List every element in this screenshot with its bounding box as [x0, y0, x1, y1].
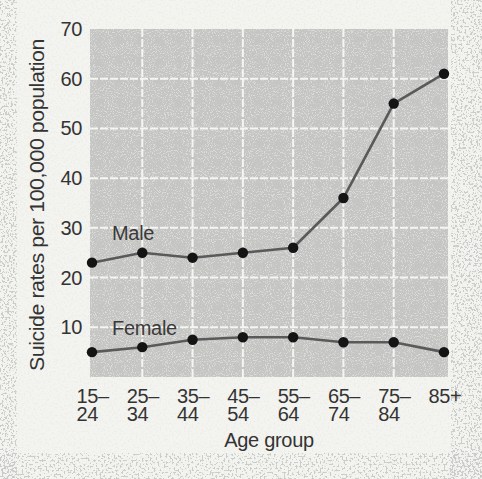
female-point-4 — [288, 332, 298, 342]
female-point-6 — [389, 337, 399, 347]
y-tick-label-20: 20 — [61, 267, 83, 289]
male-series-label: Male — [112, 222, 154, 244]
x-axis-title: Age group — [224, 429, 314, 451]
female-point-0 — [87, 347, 97, 357]
page-edge-texture-bottom — [0, 453, 482, 479]
y-tick-label-70: 70 — [61, 18, 83, 40]
x-tick-label-6-line-1: 84 — [378, 403, 400, 425]
y-tick-label-60: 60 — [61, 68, 83, 90]
y-tick-label-50: 50 — [61, 117, 83, 139]
female-point-2 — [187, 335, 197, 345]
x-tick-label-5-line-1: 74 — [328, 403, 350, 425]
y-tick-label-10: 10 — [61, 316, 83, 338]
scanned-figure-page: 7060504030201015–2425–3435–4445–5455–646… — [0, 0, 482, 479]
male-point-7 — [439, 69, 449, 79]
x-tick-label-7-line-0: 85+ — [429, 385, 462, 407]
x-tick-label-2-line-1: 44 — [177, 403, 199, 425]
male-point-0 — [87, 257, 97, 267]
female-point-3 — [238, 332, 248, 342]
male-point-2 — [187, 252, 197, 262]
male-point-5 — [338, 193, 348, 203]
x-tick-label-0-line-1: 24 — [77, 403, 99, 425]
female-point-7 — [439, 347, 449, 357]
x-tick-label-4-line-1: 64 — [278, 403, 300, 425]
female-point-5 — [338, 337, 348, 347]
x-tick-label-1-line-1: 34 — [127, 403, 149, 425]
y-axis-title: Suicide rates per 100,000 population — [26, 39, 48, 371]
female-series-label: Female — [112, 317, 177, 339]
female-point-1 — [137, 342, 147, 352]
male-point-4 — [288, 243, 298, 253]
x-tick-label-3-line-1: 54 — [227, 403, 249, 425]
page-edge-texture-right — [451, 0, 482, 479]
page-edge-texture-left — [0, 0, 17, 479]
male-point-3 — [238, 248, 248, 258]
suicide-rates-by-age-line-chart: 7060504030201015–2425–3435–4445–5455–646… — [0, 0, 482, 479]
male-point-6 — [389, 98, 399, 108]
y-tick-label-40: 40 — [61, 167, 83, 189]
male-point-1 — [137, 248, 147, 258]
y-tick-label-30: 30 — [61, 217, 83, 239]
